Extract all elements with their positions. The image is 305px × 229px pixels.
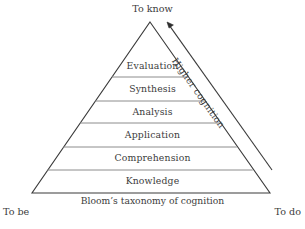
tier-label-evaluation: Evaluation [0,61,305,70]
tier-label-synthesis: Synthesis [0,84,305,93]
bloom-taxonomy-figure: To know Evaluation Synthesis Analysis Ap… [0,0,305,229]
tier-label-comprehension: Comprehension [0,153,305,162]
label-to-be: To be [3,207,29,217]
label-to-do: To do [275,207,301,217]
tier-label-analysis: Analysis [0,107,305,116]
label-to-know: To know [0,4,305,14]
higher-cognition-arrow-head [167,22,173,28]
tier-label-application: Application [0,130,305,139]
figure-caption: Bloom’s taxonomy of cognition [0,196,305,205]
tier-label-knowledge: Knowledge [0,176,305,185]
